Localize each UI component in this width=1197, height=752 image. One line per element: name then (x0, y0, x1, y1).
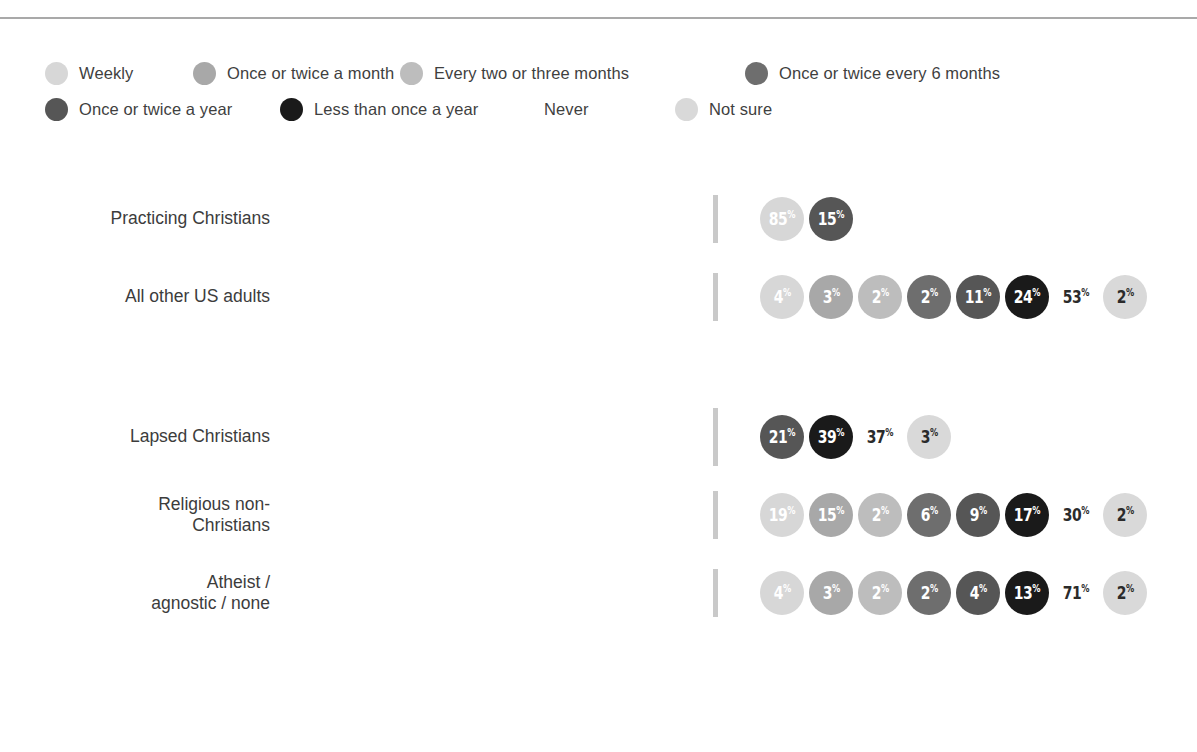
value-number: 2 (1117, 505, 1126, 525)
value-number: 4 (970, 583, 979, 603)
legend-swatch-every-two-three-months-icon (400, 62, 423, 85)
legend-item-once-twice-6-months[interactable]: Once or twice every 6 months (745, 62, 1000, 85)
percent-sign: % (787, 505, 795, 516)
bar-track (308, 486, 718, 544)
chart-row: Lapsed Christians21%39%37%3% (0, 398, 1197, 476)
legend-swatch-not-sure-icon (675, 98, 698, 121)
value-number: 3 (921, 427, 930, 447)
value-number: 53 (1063, 287, 1081, 307)
value-bubble-text: 4% (774, 584, 791, 602)
value-bubble-text: 2% (1117, 506, 1134, 524)
value-bubbles: 21%39%37%3% (760, 415, 956, 459)
percent-sign: % (1032, 287, 1040, 298)
value-bubble-less-than-once-year: 24% (1005, 275, 1049, 319)
bar-track (308, 268, 718, 326)
value-bubble-text: 17% (1014, 506, 1040, 524)
value-bubble-once-twice-month: 15% (809, 493, 853, 537)
value-bubble-text: 13% (1014, 584, 1040, 602)
legend-label: Once or twice a month (227, 64, 394, 83)
value-bubble-never: 30% (1054, 493, 1098, 537)
value-bubble-text: 24% (1014, 288, 1040, 306)
legend-swatch-once-twice-month-icon (193, 62, 216, 85)
value-bubble-weekly: 4% (760, 571, 804, 615)
value-bubble-text: 3% (921, 428, 938, 446)
value-number: 9 (970, 505, 979, 525)
value-bubble-text: 11% (965, 288, 991, 306)
value-bubble-text: 2% (921, 584, 938, 602)
legend-label: Weekly (79, 64, 133, 83)
top-divider (0, 17, 1197, 19)
legend-item-not-sure[interactable]: Not sure (675, 98, 772, 121)
value-bubble-never: 53% (1054, 275, 1098, 319)
value-bubble-text: 3% (823, 584, 840, 602)
value-bubble-text: 4% (970, 584, 987, 602)
value-bubble-text: 2% (872, 584, 889, 602)
value-number: 2 (1117, 287, 1126, 307)
value-bubble-never: 71% (1054, 571, 1098, 615)
value-number: 21 (769, 427, 787, 447)
legend-item-once-twice-month[interactable]: Once or twice a month (193, 62, 394, 85)
value-bubble-text: 3% (823, 288, 840, 306)
legend-swatch-weekly-icon (45, 62, 68, 85)
bar-track (308, 190, 718, 248)
legend-label: Never (544, 100, 589, 119)
axis-tick (713, 491, 718, 539)
percent-sign: % (787, 209, 795, 220)
value-number: 2 (872, 287, 881, 307)
chart-row: Religious non- Christians19%15%2%6%9%17%… (0, 476, 1197, 554)
legend-label: Every two or three months (434, 64, 629, 83)
percent-sign: % (832, 287, 840, 298)
legend-row: WeeklyOnce or twice a monthEvery two or … (45, 55, 1105, 91)
value-number: 85 (769, 209, 787, 229)
value-number: 2 (872, 505, 881, 525)
value-number: 4 (774, 583, 783, 603)
value-bubble-once-twice-month: 3% (809, 275, 853, 319)
value-number: 15 (818, 505, 836, 525)
percent-sign: % (836, 427, 844, 438)
value-number: 19 (769, 505, 787, 525)
legend-label: Not sure (709, 100, 772, 119)
value-bubble-text: 39% (818, 428, 844, 446)
percent-sign: % (836, 505, 844, 516)
legend-swatch-once-twice-6-months-icon (745, 62, 768, 85)
value-bubble-every-two-three-months: 2% (858, 275, 902, 319)
row-label: Lapsed Christians (0, 426, 270, 447)
percent-sign: % (1126, 287, 1134, 298)
value-bubble-text: 2% (1117, 288, 1134, 306)
value-bubble-less-than-once-year: 39% (809, 415, 853, 459)
value-bubble-every-two-three-months: 2% (858, 571, 902, 615)
value-number: 11 (965, 287, 983, 307)
value-bubble-weekly: 85% (760, 197, 804, 241)
value-bubble-text: 37% (867, 428, 893, 446)
value-number: 37 (867, 427, 885, 447)
value-bubble-never: 37% (858, 415, 902, 459)
axis-tick (713, 195, 718, 243)
value-bubble-every-two-three-months: 2% (858, 493, 902, 537)
legend-item-weekly[interactable]: Weekly (45, 62, 133, 85)
legend-label: Once or twice every 6 months (779, 64, 1000, 83)
value-bubble-text: 53% (1063, 288, 1089, 306)
value-number: 3 (823, 287, 832, 307)
legend-item-once-twice-year[interactable]: Once or twice a year (45, 98, 232, 121)
percent-sign: % (1032, 583, 1040, 594)
value-number: 30 (1063, 505, 1081, 525)
legend-label: Less than once a year (314, 100, 478, 119)
legend-item-less-than-once-year[interactable]: Less than once a year (280, 98, 478, 121)
chart-group-1: Practicing Christians85%15%All other US … (0, 180, 1197, 336)
value-number: 39 (818, 427, 836, 447)
value-bubble-not-sure: 2% (1103, 571, 1147, 615)
chart-row: Practicing Christians85%15% (0, 180, 1197, 258)
value-number: 71 (1063, 583, 1081, 603)
percent-sign: % (885, 427, 893, 438)
percent-sign: % (979, 583, 987, 594)
value-bubble-once-twice-year: 15% (809, 197, 853, 241)
percent-sign: % (881, 505, 889, 516)
value-bubble-once-twice-6-months: 2% (907, 275, 951, 319)
legend-item-never[interactable]: Never (510, 98, 589, 121)
value-bubble-text: 4% (774, 288, 791, 306)
value-bubble-less-than-once-year: 13% (1005, 571, 1049, 615)
legend-item-every-two-three-months[interactable]: Every two or three months (400, 62, 629, 85)
legend-swatch-never-icon (510, 98, 533, 121)
percent-sign: % (783, 287, 791, 298)
value-bubble-text: 2% (1117, 584, 1134, 602)
